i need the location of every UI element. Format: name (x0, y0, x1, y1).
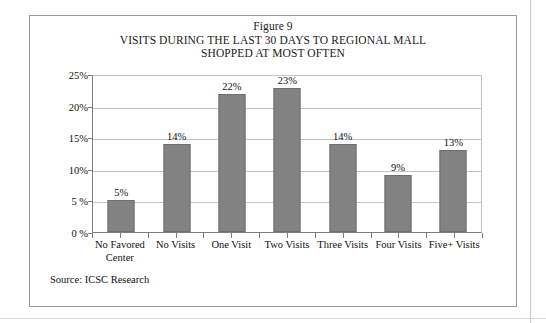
bar-value-label: 23% (278, 75, 297, 86)
y-axis-tick (88, 138, 92, 139)
y-axis-tick-label: 10% (69, 164, 88, 175)
y-axis-tick (88, 75, 92, 76)
figure-title-line-1: Figure 9 (30, 20, 516, 34)
figure-title-line-3: SHOPPED AT MOST OFTEN (30, 47, 516, 61)
bar-value-label: 13% (444, 137, 463, 148)
bar-slot: 23% (260, 75, 315, 232)
figure-title: Figure 9 VISITS DURING THE LAST 30 DAYS … (30, 20, 516, 61)
x-axis-category-label-line: Five+ Visits (426, 239, 482, 252)
bar[interactable] (384, 175, 411, 231)
bar-series: 5%14%22%23%14%9%13% (94, 75, 482, 232)
x-axis-ticks (92, 233, 482, 238)
x-axis-minor-tick (176, 233, 177, 238)
y-axis-tick-label: 20% (69, 101, 88, 112)
bar-value-label: 14% (333, 131, 352, 142)
bar[interactable] (108, 200, 135, 231)
bar[interactable] (163, 144, 190, 231)
x-axis-minor-tick (343, 233, 344, 238)
bar-slot: 14% (149, 75, 204, 232)
y-axis-tick (88, 170, 92, 171)
page-bottom-rule (0, 318, 546, 319)
figure-title-line-2: VISITS DURING THE LAST 30 DAYS TO REGION… (30, 34, 516, 48)
x-axis-category-label: Two Visits (259, 239, 315, 271)
bar-value-label: 5% (114, 187, 128, 198)
x-axis-category-label-line: One Visit (203, 239, 259, 252)
source-note: Source: ICSC Research (50, 274, 149, 285)
x-axis-category-label: Five+ Visits (426, 239, 482, 271)
x-axis-category-label-line: Four Visits (371, 239, 427, 252)
bar[interactable] (440, 150, 467, 231)
y-axis-tick (88, 201, 92, 202)
x-axis-minor-tick (120, 233, 121, 238)
y-axis-tick (88, 107, 92, 108)
x-axis-category-label-line: No Visits (148, 239, 204, 252)
x-axis-category-label: Four Visits (371, 239, 427, 271)
x-axis-category-label-line: No Favored (92, 239, 148, 252)
y-axis-tick-label: 25% (69, 70, 88, 81)
x-axis-labels: No FavoredCenterNo VisitsOne VisitTwo Vi… (92, 239, 482, 271)
x-axis-tick (259, 233, 260, 238)
page-right-margin-rule (530, 0, 531, 323)
figure-frame: Figure 9 VISITS DURING THE LAST 30 DAYS … (29, 15, 517, 307)
y-axis-tick-label: 5 % (71, 196, 88, 207)
bar[interactable] (329, 144, 356, 231)
x-axis-category-label: No FavoredCenter (92, 239, 148, 271)
x-axis-tick (426, 233, 427, 238)
x-axis-tick (148, 233, 149, 238)
x-axis-tick (203, 233, 204, 238)
y-axis: 25%20%15%10%5 %0 % (46, 75, 88, 233)
y-axis-tick-label: 0 % (71, 228, 88, 239)
bar-slot: 5% (94, 75, 149, 232)
bar-slot: 14% (315, 75, 370, 232)
bar[interactable] (274, 88, 301, 232)
x-axis-category-label: No Visits (148, 239, 204, 271)
bar-chart: 25%20%15%10%5 %0 % 5%14%22%23%14%9%13% N… (92, 75, 482, 233)
x-axis-tick (371, 233, 372, 238)
x-axis-minor-tick (454, 233, 455, 238)
bar-value-label: 14% (167, 131, 186, 142)
x-axis-minor-tick (231, 233, 232, 238)
x-axis-category-label-line: Two Visits (259, 239, 315, 252)
bar-slot: 13% (426, 75, 481, 232)
bar-value-label: 9% (391, 162, 405, 173)
x-axis-category-label-line: Three Visits (315, 239, 371, 252)
x-axis-minor-tick (398, 233, 399, 238)
x-axis-minor-tick (287, 233, 288, 238)
x-axis-tick (482, 233, 483, 238)
bar[interactable] (218, 94, 245, 231)
bar-value-label: 22% (222, 81, 241, 92)
x-axis-category-label: One Visit (203, 239, 259, 271)
bar-slot: 9% (370, 75, 425, 232)
x-axis-category-label-line: Center (92, 252, 148, 265)
y-axis-tick-label: 15% (69, 133, 88, 144)
bar-slot: 22% (204, 75, 259, 232)
x-axis-tick (92, 233, 93, 238)
x-axis-category-label: Three Visits (315, 239, 371, 271)
x-axis-tick (315, 233, 316, 238)
